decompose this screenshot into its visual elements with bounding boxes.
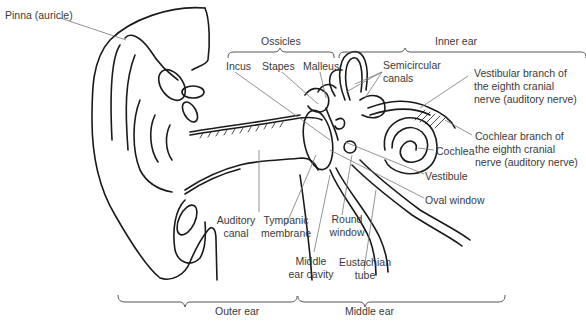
label-cochlear-branch: Cochlear branch of the eighth cranial ne… (475, 130, 578, 169)
label-cochlea: Cochlea (436, 145, 475, 158)
label-malleus: Malleus (303, 60, 339, 73)
middle-ear-brace (298, 295, 505, 307)
label-eustachian-tube: Eustachian tube (334, 256, 396, 282)
label-outer-ear: Outer ear (215, 305, 259, 318)
label-oval-window: Oval window (425, 194, 485, 207)
label-tympanic-membrane: Tympanic membrane (258, 214, 314, 240)
label-middle-ear: Middle ear (345, 305, 394, 318)
ossicles-brace (228, 48, 334, 58)
auditory-canal-bottom (185, 158, 318, 190)
label-incus: Incus (226, 60, 251, 73)
inner-ear-brace (339, 48, 586, 58)
label-semicircular-canals: Semicircular canals (383, 59, 441, 85)
cochlea-shape (392, 128, 428, 163)
label-vestibular-branch: Vestibular branch of the eighth cranial … (474, 67, 577, 106)
label-ossicles: Ossicles (261, 35, 301, 48)
label-inner-ear: Inner ear (435, 35, 477, 48)
label-stapes: Stapes (262, 60, 295, 73)
label-vestibule: Vestibule (425, 170, 468, 183)
label-auditory-canal: Auditory canal (210, 214, 262, 240)
semicircular-canals-shape (340, 52, 368, 100)
label-round-window: Round window (324, 213, 370, 239)
pinna-outline (92, 8, 217, 280)
outer-ear-brace (118, 295, 297, 307)
label-middle-ear-cavity: Middle ear cavity (281, 255, 341, 281)
label-pinna: Pinna (auricle) (5, 9, 73, 22)
